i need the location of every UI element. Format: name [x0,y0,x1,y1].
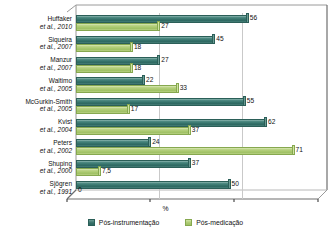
bar-light[interactable] [76,23,158,31]
bar-dark[interactable] [76,160,189,168]
category-label: Sjögren et al., 1991 [0,180,72,195]
bar-group: 2233 [76,75,320,96]
category-label: Huffaker et al., 2010 [0,15,72,30]
bar-cap [292,145,295,155]
bar-chart: Huffaker et al., 2010 Siqueira et al., 2… [0,0,331,236]
bar-light[interactable] [76,106,128,114]
legend-item-pos-instrumentacao[interactable]: Pós-instrumentação [88,219,159,226]
bar-value-label: 71 [296,146,303,153]
category-name: Peters [0,139,72,147]
category-name: Huffaker [0,15,72,23]
legend-label: Pós-medicação [196,219,243,226]
bar-dark[interactable] [76,57,158,65]
category-year: et al., 2004 [0,126,72,134]
category-label: Shuping et al., 2000 [0,160,72,175]
bar-value-label: 56 [250,14,257,21]
bar-dark[interactable] [76,181,229,189]
category-label: McGurkin-Smith et al., 2005 [0,98,72,113]
bar-group: 5517 [76,96,320,117]
category-name: Shuping [0,160,72,168]
bar-value-label: 18 [134,64,141,71]
bar-cap [148,137,151,147]
legend-label: Pós-instrumentação [99,219,159,226]
legend-swatch-icon [185,219,192,226]
bar-value-label: 27 [161,56,168,63]
bar-light[interactable] [76,65,131,73]
bar-dark[interactable] [76,36,213,44]
bar-cap [130,63,133,73]
category-name: Sjögren [0,180,72,188]
bar-group: 4518 [76,34,320,55]
category-name: Waltimo [0,77,72,85]
category-label: Siqueira et al., 2007 [0,36,72,51]
bar-cap [142,75,145,85]
bar-cap [243,96,246,106]
bar-cap [130,42,133,52]
bar-value-label: 55 [247,97,254,104]
category-name: Manzur [0,56,72,64]
bar-group: 2718 [76,54,320,75]
bar-cap [246,13,249,23]
bar-value-label: 18 [134,43,141,50]
bar-dark[interactable] [76,119,265,127]
legend-swatch-icon [88,219,95,226]
category-year: et al., 1991 [0,188,72,196]
bar-group: 377,5 [76,158,320,179]
bar-value-label: 37 [192,159,199,166]
category-year: et al., 2000 [0,167,72,175]
bar-cap [188,125,191,135]
category-year: et al., 2002 [0,147,72,155]
category-label: Manzur et al., 2007 [0,56,72,71]
bar-light[interactable] [76,127,189,135]
bar-value-label: 24 [152,138,159,145]
category-year: et al., 2005 [0,105,72,113]
bar-group: 2471 [76,137,320,158]
bar-group: 5627 [76,13,320,34]
bar-value-label: 50 [232,180,239,187]
bar-dark[interactable] [76,77,143,85]
axis-zero-label: 0 [78,186,82,193]
category-year: et al., 2007 [0,43,72,51]
bar-cap [157,21,160,31]
bar-group: 6237 [76,116,320,137]
bar-cap [176,83,179,93]
category-year: et al., 2005 [0,85,72,93]
bar-value-label: 7,5 [102,167,111,174]
category-label: Kvist et al., 2004 [0,118,72,133]
category-name: Siqueira [0,36,72,44]
bar-value-label: 62 [268,118,275,125]
bar-value-label: 17 [131,105,138,112]
category-axis-labels: Huffaker et al., 2010 Siqueira et al., 2… [0,13,74,199]
bar-light[interactable] [76,85,177,93]
category-year: et al., 2007 [0,64,72,72]
bar-cap [98,166,101,176]
bar-cap [127,104,130,114]
category-year: et al., 2010 [0,23,72,31]
bar-value-label: 45 [216,35,223,42]
bar-cap [157,55,160,65]
bar-cap [212,34,215,44]
bar-light[interactable] [76,168,99,176]
bar-value-label: 27 [161,22,168,29]
bar-cap [228,179,231,189]
bar-light[interactable] [76,44,131,52]
category-label: Peters et al., 2002 [0,139,72,154]
bar-value-label: 22 [146,76,153,83]
category-name: Kvist [0,118,72,126]
category-name: McGurkin-Smith [0,98,72,106]
bar-dark[interactable] [76,98,244,106]
bar-light[interactable] [76,147,293,155]
category-label: Waltimo et al., 2005 [0,77,72,92]
legend-item-pos-medicacao[interactable]: Pós-medicação [185,219,243,226]
bar-cap [264,117,267,127]
x-axis-title: % [0,205,331,212]
chart-legend: Pós-instrumentação Pós-medicação [0,219,331,226]
plot-area: 5627451827182233551762372471377,5500 [76,13,320,199]
bar-cap [188,158,191,168]
bar-dark[interactable] [76,139,149,147]
bar-group: 500 [76,178,320,199]
bar-value-label: 37 [192,126,199,133]
bar-value-label: 33 [180,84,187,91]
